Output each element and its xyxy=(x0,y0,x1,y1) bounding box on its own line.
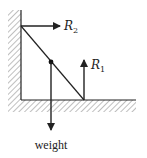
r1-symbol: R xyxy=(90,58,100,72)
r1-label: R1 xyxy=(90,58,105,74)
r2-label: R2 xyxy=(63,19,78,35)
ladder-free-body-diagram: R2 R1 weight xyxy=(0,0,147,158)
r1-subscript: 1 xyxy=(100,65,105,74)
r2-subscript: 2 xyxy=(73,26,78,35)
floor-hatching xyxy=(8,100,136,112)
weight-label: weight xyxy=(35,138,68,152)
r2-symbol: R xyxy=(63,19,73,33)
wall-hatching xyxy=(8,10,21,100)
